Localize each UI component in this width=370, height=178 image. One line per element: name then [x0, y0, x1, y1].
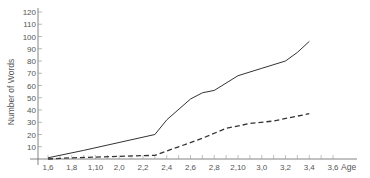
x-tick-label: 3,2 — [280, 163, 292, 172]
series-line-solid — [48, 41, 309, 157]
y-tick-label: 90 — [27, 45, 36, 54]
y-tick-label: 10 — [27, 143, 36, 152]
y-tick-label: 20 — [27, 131, 36, 140]
x-tick-label: 3,0 — [256, 163, 268, 172]
series-layer — [48, 41, 309, 159]
y-axis: 102030405060708090100110120 — [23, 8, 42, 165]
x-tick-label: 2,8 — [209, 163, 221, 172]
x-tick-label: 2,0 — [114, 163, 126, 172]
x-tick-label: 2,4 — [161, 163, 173, 172]
x-tick-label: 3,6 — [327, 163, 339, 172]
x-tick-label: 1,10 — [88, 163, 104, 172]
x-axis-label: Age — [341, 162, 356, 172]
x-tick-label: 2,2 — [137, 163, 149, 172]
x-tick-label: 2,10 — [230, 163, 246, 172]
y-tick-label: 120 — [23, 8, 37, 17]
y-tick-label: 70 — [27, 69, 36, 78]
x-tick-label: 2,6 — [185, 163, 197, 172]
x-axis: 1,61,81,102,02,22,42,62,82,103,03,23,43,… — [30, 155, 357, 172]
y-tick-label: 30 — [27, 118, 36, 127]
line-chart: 102030405060708090100110120 1,61,81,102,… — [0, 0, 370, 178]
x-tick-label: 1,8 — [66, 163, 78, 172]
x-tick-label: 1,6 — [42, 163, 54, 172]
y-axis-label: Number of Words — [6, 59, 16, 125]
y-tick-label: 100 — [23, 33, 37, 42]
x-tick-label: 3,4 — [304, 163, 316, 172]
series-line-dashed — [48, 114, 309, 159]
y-tick-label: 60 — [27, 82, 36, 91]
y-tick-label: 110 — [23, 20, 36, 29]
y-tick-label: 80 — [27, 57, 36, 66]
y-tick-label: 40 — [27, 106, 36, 115]
y-tick-label: 50 — [27, 94, 36, 103]
